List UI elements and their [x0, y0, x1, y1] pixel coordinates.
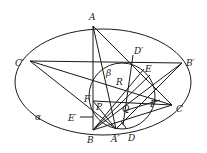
- label-P: P: [95, 102, 103, 112]
- geometry-diagram: A B C A′ B′ C′ D′ E R F P Q F′ D E′ α β: [0, 0, 207, 153]
- label-F-prime: F′: [149, 99, 158, 109]
- label-beta: β: [105, 68, 111, 78]
- label-E-prime: E′: [67, 113, 77, 123]
- label-B: B: [86, 135, 94, 145]
- label-R: R: [115, 77, 123, 87]
- label-D: D: [127, 133, 135, 143]
- label-A: A: [88, 12, 96, 22]
- label-E: E: [144, 64, 152, 74]
- label-alpha: α: [35, 112, 41, 122]
- label-C: C: [176, 104, 183, 114]
- label-B-prime: B′: [185, 58, 195, 68]
- label-D-prime: D′: [133, 46, 143, 56]
- label-A-prime: A′: [110, 134, 120, 144]
- diagram-svg: A B C A′ B′ C′ D′ E R F P Q F′ D E′ α β: [0, 0, 207, 153]
- label-C-prime: C′: [15, 58, 24, 68]
- line-CprimeBprime: [30, 61, 182, 63]
- label-F: F: [83, 94, 91, 104]
- label-Q: Q: [122, 104, 130, 114]
